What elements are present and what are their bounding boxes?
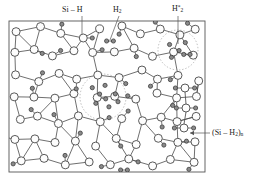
silicon-atom xyxy=(138,66,146,74)
silicon-atom xyxy=(16,115,24,123)
hydrogen-atom xyxy=(99,164,103,168)
silicon-atom xyxy=(31,135,39,143)
hydrogen-atom xyxy=(104,97,108,101)
silicon-atom xyxy=(154,134,162,142)
silicon-atom xyxy=(132,141,140,149)
silicon-atom xyxy=(166,155,174,163)
hydrogen-atom xyxy=(185,21,189,25)
hydrogen-atom xyxy=(160,125,164,129)
silicon-atom xyxy=(132,95,140,103)
hydrogen-atom xyxy=(119,144,123,148)
silicon-atom xyxy=(10,93,18,101)
silicon-atom xyxy=(182,104,190,112)
hydrogen-atom xyxy=(182,52,186,56)
silicon-atom xyxy=(191,25,199,33)
h2-star-hydrogen xyxy=(169,55,173,59)
hydrogen-atom xyxy=(126,109,130,113)
hydrogen-atom xyxy=(30,86,34,90)
figure-container: Si – H H2 H*2 (Si – H2)n xyxy=(0,0,254,185)
silicon-atom xyxy=(149,162,157,170)
silicon-atom xyxy=(11,135,19,143)
silicon-atom xyxy=(73,75,81,83)
polysilane-label: (Si – H2)n xyxy=(212,129,243,137)
h2-star-hydrogen xyxy=(167,42,171,46)
silicon-atom xyxy=(61,161,69,169)
silicon-atom xyxy=(40,154,48,162)
silicon-atom xyxy=(136,30,144,38)
silicon-atom xyxy=(125,155,133,163)
silicon-atom xyxy=(30,93,38,101)
silicon-atom xyxy=(94,71,102,79)
silicon-atom xyxy=(148,52,156,60)
h2-molecule xyxy=(105,39,109,43)
silicon-atom xyxy=(173,94,181,102)
void-surface-hydrogen xyxy=(94,101,98,105)
silicon-atom xyxy=(96,25,104,33)
hydrogen-atom xyxy=(148,84,152,88)
hydrogen-atom xyxy=(52,113,56,117)
polysilane-hydrogen xyxy=(194,106,198,110)
silicon-atom xyxy=(195,77,203,85)
network-diagram xyxy=(0,0,254,185)
hydrogen-atom xyxy=(11,162,15,166)
si-si-bond xyxy=(194,146,195,158)
hydrogen-atom xyxy=(168,78,172,82)
silicon-atom xyxy=(156,25,164,33)
silicon-atom xyxy=(157,113,165,121)
h2-molecule xyxy=(111,39,115,43)
silicon-atom xyxy=(190,158,198,166)
silicon-atom xyxy=(176,31,184,39)
silicon-atom xyxy=(89,49,97,57)
hydrogen-atom xyxy=(78,131,82,135)
void-surface-hydrogen xyxy=(113,92,117,96)
void-surface-hydrogen xyxy=(98,92,102,96)
hydrogen-atom xyxy=(171,103,175,107)
silicon-atom xyxy=(154,75,162,83)
hydrogen-atom xyxy=(63,153,67,157)
hydrogen-atom xyxy=(100,48,104,52)
hydrogen-atom xyxy=(58,48,62,52)
silicon-atom xyxy=(180,124,188,132)
silicon-atom xyxy=(174,138,182,146)
hydrogen-atom xyxy=(60,22,64,26)
silicon-atom xyxy=(110,48,118,56)
silicon-atom xyxy=(51,138,59,146)
silicon-atom xyxy=(115,74,123,82)
silicon-atom xyxy=(92,142,100,150)
h2-star-hydrogen xyxy=(188,52,192,56)
hydrogen-atom xyxy=(184,139,188,143)
silicon-atom xyxy=(130,44,138,52)
void-surface-hydrogen xyxy=(103,83,107,87)
silicon-atom xyxy=(173,118,181,126)
h2-star-hydrogen xyxy=(177,48,181,52)
silicon-atom xyxy=(12,28,20,36)
silicon-atom xyxy=(48,52,56,60)
hydrogen-atom xyxy=(107,116,111,120)
hydrogen-atom xyxy=(74,87,78,91)
silicon-atom xyxy=(11,48,19,56)
silicon-atom xyxy=(55,69,63,77)
h2-star-label: H*2 xyxy=(172,5,183,14)
silicon-atom xyxy=(57,29,65,37)
silicon-atom xyxy=(33,112,41,120)
silicon-atom xyxy=(192,112,200,120)
polysilane-hydrogen xyxy=(173,86,177,90)
silicon-atom xyxy=(118,115,126,123)
silicon-atom xyxy=(139,117,147,125)
hydrogen-atom xyxy=(126,94,130,98)
hydrogen-atom xyxy=(162,143,166,147)
void-surface-hydrogen xyxy=(107,105,111,109)
silicon-atom xyxy=(192,92,200,100)
silicon-atom xyxy=(71,137,79,145)
polysilane-hydrogen xyxy=(193,86,197,90)
silicon-atom xyxy=(37,23,45,31)
silicon-atom xyxy=(79,34,87,42)
h2-label: H2 xyxy=(113,6,122,14)
h2-molecule xyxy=(125,168,129,172)
silicon-atom xyxy=(181,84,189,92)
polysilane-hydrogen xyxy=(192,126,196,130)
si-h-bond xyxy=(33,90,34,93)
silicon-atom xyxy=(118,22,126,30)
silicon-atom xyxy=(54,120,62,128)
silicon-atom xyxy=(70,47,78,55)
